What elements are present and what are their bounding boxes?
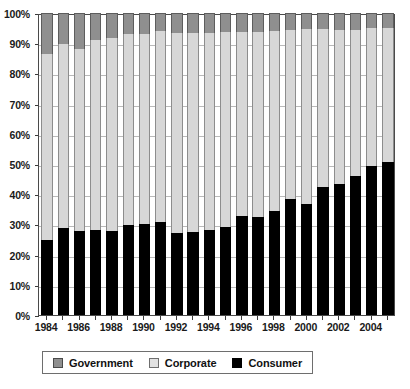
bar-segment-government xyxy=(269,13,280,31)
x-axis-tick xyxy=(95,316,96,320)
bar-segment-corporate xyxy=(171,33,182,233)
bar-segment-consumer xyxy=(123,225,134,315)
y-axis-tick-label: 10% xyxy=(0,281,30,291)
x-axis-tick xyxy=(354,316,355,320)
bar-segment-consumer xyxy=(139,224,150,316)
bar-segment-corporate xyxy=(269,31,280,211)
bar-segment-consumer xyxy=(155,222,166,315)
legend-item-corporate[interactable]: Corporate xyxy=(149,357,217,369)
bar-segment-government xyxy=(58,13,69,44)
bar-segment-government xyxy=(236,13,247,32)
x-axis-tick xyxy=(192,316,193,320)
bar-segment-corporate xyxy=(220,32,231,226)
bar-segment-government xyxy=(106,13,117,38)
chart-legend: GovernmentCorporateConsumer xyxy=(42,351,313,374)
bar-segment-government xyxy=(350,13,361,30)
bar-group xyxy=(220,15,231,315)
bar-segment-government xyxy=(334,13,345,30)
bar-segment-consumer xyxy=(350,176,361,315)
y-axis-tick-label: 30% xyxy=(0,220,30,230)
bar-group xyxy=(236,15,247,315)
legend-label: Government xyxy=(69,357,133,369)
x-axis-tick-label: 1986 xyxy=(67,321,90,333)
bar-group xyxy=(285,15,296,315)
bar-segment-consumer xyxy=(301,204,312,315)
bar-segment-consumer xyxy=(187,232,198,315)
bar-segment-consumer xyxy=(204,230,215,315)
bar-segment-corporate xyxy=(252,32,263,217)
y-axis-tick-label: 0% xyxy=(0,311,30,321)
x-axis-tick xyxy=(322,316,323,320)
bar-segment-corporate xyxy=(123,34,134,225)
x-axis-tick xyxy=(79,316,80,320)
bar-group xyxy=(301,15,312,315)
legend-swatch-icon xyxy=(53,358,63,368)
x-axis-tick xyxy=(371,316,372,320)
legend-swatch-icon xyxy=(149,358,159,368)
x-axis-tick xyxy=(290,316,291,320)
bar-segment-corporate xyxy=(74,49,85,231)
x-axis-tick xyxy=(46,316,47,320)
y-axis-tick-label: 70% xyxy=(0,100,30,110)
x-axis-tick-label: 1996 xyxy=(230,321,253,333)
bar-segment-government xyxy=(74,13,85,49)
bar-segment-government xyxy=(155,13,166,31)
x-axis-tick xyxy=(176,316,177,320)
x-axis-tick xyxy=(208,316,209,320)
x-axis-tick xyxy=(306,316,307,320)
x-axis-tick-label: 1998 xyxy=(262,321,285,333)
y-axis-tick-label: 80% xyxy=(0,69,30,79)
bar-segment-government xyxy=(123,13,134,34)
bar-group xyxy=(382,15,393,315)
bar-group xyxy=(155,15,166,315)
bar-segment-corporate xyxy=(155,31,166,222)
legend-label: Corporate xyxy=(165,357,217,369)
bar-segment-corporate xyxy=(106,38,117,231)
bar-segment-corporate xyxy=(301,29,312,204)
bar-segment-government xyxy=(139,13,150,34)
x-axis-tick xyxy=(127,316,128,320)
y-axis-tick-label: 60% xyxy=(0,130,30,140)
x-axis-tick-label: 2002 xyxy=(327,321,350,333)
bar-segment-consumer xyxy=(317,187,328,315)
x-axis-tick xyxy=(387,316,388,320)
bar-segment-government xyxy=(90,13,101,40)
bar-group xyxy=(74,15,85,315)
bar-segment-consumer xyxy=(236,216,247,315)
bar-segment-corporate xyxy=(317,29,328,187)
bar-group xyxy=(350,15,361,315)
y-axis-tick-label: 50% xyxy=(0,160,30,170)
y-axis: 0%10%20%30%40%50%60%70%80%90%100% xyxy=(0,0,38,330)
legend-item-consumer[interactable]: Consumer xyxy=(232,357,302,369)
y-axis-tick-label: 20% xyxy=(0,251,30,261)
bar-segment-consumer xyxy=(252,217,263,315)
x-axis-tick-label: 1984 xyxy=(35,321,58,333)
x-axis-tick-label: 2004 xyxy=(359,321,382,333)
bar-segment-government xyxy=(366,13,377,28)
x-axis-tick-label: 2000 xyxy=(294,321,317,333)
legend-item-government[interactable]: Government xyxy=(53,357,133,369)
bar-segment-government xyxy=(41,13,52,54)
x-axis-tick xyxy=(62,316,63,320)
x-axis-tick xyxy=(111,316,112,320)
bar-segment-consumer xyxy=(366,166,377,315)
bar-group xyxy=(139,15,150,315)
bar-segment-corporate xyxy=(382,28,393,162)
x-axis-tick xyxy=(338,316,339,320)
x-axis-tick-label: 1988 xyxy=(100,321,123,333)
x-axis-tick-label: 1994 xyxy=(197,321,220,333)
bar-segment-consumer xyxy=(269,211,280,315)
x-axis-tick xyxy=(160,316,161,320)
bar-segment-government xyxy=(285,13,296,30)
x-axis-tick xyxy=(143,316,144,320)
y-axis-tick-label: 40% xyxy=(0,190,30,200)
x-axis-tick xyxy=(241,316,242,320)
x-axis-tick-label: 1992 xyxy=(165,321,188,333)
bar-segment-consumer xyxy=(74,231,85,315)
stacked-bar-chart: 0%10%20%30%40%50%60%70%80%90%100% 198419… xyxy=(0,0,410,389)
bar-group xyxy=(90,15,101,315)
bar-segment-corporate xyxy=(350,30,361,176)
bar-group xyxy=(41,15,52,315)
legend-label: Consumer xyxy=(248,357,302,369)
bar-segment-government xyxy=(171,13,182,33)
